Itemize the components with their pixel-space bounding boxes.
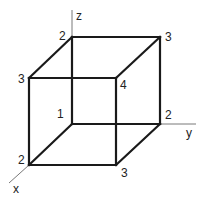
vertex-label-front-top-right: 4 — [120, 78, 127, 92]
x-axis — [9, 165, 29, 183]
vertex-label-front-top-left: 3 — [18, 72, 25, 86]
edge-top-right-depth — [116, 37, 160, 78]
cube-diagram: z y x 1 2 3 2 3 4 2 3 — [0, 0, 204, 198]
z-axis-label: z — [76, 9, 82, 23]
vertex-label-back-bottom-left: 1 — [57, 107, 64, 121]
y-axis-label: y — [186, 126, 192, 140]
vertex-label-front-bottom-right: 3 — [121, 166, 128, 180]
vertex-label-back-top-left: 2 — [59, 29, 66, 43]
edge-bottom-right-depth — [116, 124, 160, 165]
vertex-label-back-top-right: 3 — [165, 30, 172, 44]
vertex-label-front-bottom-left: 2 — [18, 153, 25, 167]
x-axis-label: x — [13, 182, 19, 196]
vertex-label-back-bottom-right: 2 — [165, 108, 172, 122]
edge-bottom-left-depth — [29, 124, 72, 165]
edge-top-left-depth — [29, 37, 72, 78]
